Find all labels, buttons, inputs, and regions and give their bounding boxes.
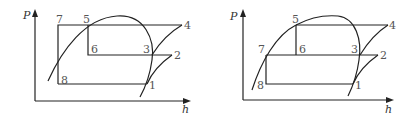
point-3-label: 3 (143, 44, 150, 55)
h-axis-label: h (385, 104, 392, 115)
h-axis-label: h (182, 104, 189, 115)
point-2-label: 2 (174, 50, 181, 61)
cycle-mid (88, 25, 172, 55)
point-7-label: 7 (56, 14, 63, 25)
ph-diagram-left: P h 7 5 4 6 3 2 8 1 (0, 0, 206, 121)
point-6-label: 6 (91, 44, 98, 55)
point-8-label: 8 (257, 80, 264, 91)
p-axis-arrow-icon (32, 9, 38, 17)
point-7-label: 7 (258, 44, 265, 55)
point-6-label: 6 (299, 44, 306, 55)
point-8-label: 8 (61, 75, 68, 86)
point-4-label: 4 (389, 20, 396, 31)
point-4-label: 4 (184, 20, 191, 31)
point-1-label: 1 (355, 80, 362, 91)
p-axis-label: P (230, 11, 237, 22)
p-axis-arrow-icon (240, 9, 246, 17)
point-5-label: 5 (292, 14, 299, 25)
point-2-label: 2 (380, 50, 387, 61)
point-1-label: 1 (149, 80, 156, 91)
p-axis-label: P (23, 10, 30, 21)
ph-diagram-right: P h 5 4 7 6 3 2 8 1 (206, 0, 412, 121)
point-3-label: 3 (351, 44, 358, 55)
point-5-label: 5 (83, 14, 90, 25)
cycle-low-loop (266, 55, 353, 84)
